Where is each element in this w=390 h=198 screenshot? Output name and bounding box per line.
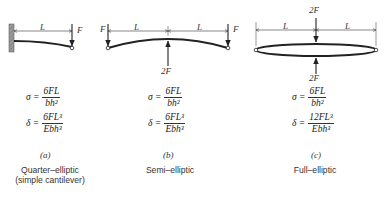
caption-c: Full–elliptic	[275, 165, 355, 175]
sublabel-a: (a)	[40, 150, 51, 160]
stress-formula: σ =6FLbh²	[26, 86, 63, 112]
span-label-right: L	[197, 22, 202, 32]
formulas-b: σ =6FLbh² δ =6FL³Ebh³	[148, 86, 185, 138]
deflection-formula: δ =6FL³Ebh³	[148, 112, 185, 138]
span-label-left: L	[134, 22, 139, 32]
force-label-bottom: 2F	[309, 73, 319, 83]
sublabel-c: (c)	[311, 150, 321, 160]
caption-a: Quarter–elliptic (simple cantilever)	[0, 165, 100, 185]
span-label-right: L	[345, 21, 350, 31]
force-label-top: 2F	[309, 5, 319, 15]
stress-formula: σ =6FLbh²	[292, 86, 334, 112]
formulas-a: σ =6FLbh² δ =6FL³Ebh³	[26, 86, 63, 138]
sublabel-b: (b)	[163, 150, 174, 160]
deflection-formula: δ =6FL³Ebh³	[26, 112, 63, 138]
formulas-c: σ =6FLbh² δ =12FL³Ebh³	[292, 86, 334, 138]
spring-ellipse	[256, 44, 376, 56]
diagram-c-full-elliptic	[254, 18, 378, 74]
force-label: F	[77, 25, 83, 35]
force-label-center: 2F	[161, 66, 171, 76]
span-label-left: L	[283, 21, 288, 31]
force-label-left: F	[100, 24, 106, 34]
stress-formula: σ =6FLbh²	[148, 86, 185, 112]
caption-b: Semi–elliptic	[130, 165, 210, 175]
wall-support	[9, 24, 14, 52]
span-label: L	[40, 22, 45, 32]
spring-leaf	[14, 41, 72, 47]
deflection-formula: δ =12FL³Ebh³	[292, 112, 334, 138]
diagram-b-semi-elliptic	[106, 24, 230, 66]
force-label-right: F	[233, 24, 239, 34]
